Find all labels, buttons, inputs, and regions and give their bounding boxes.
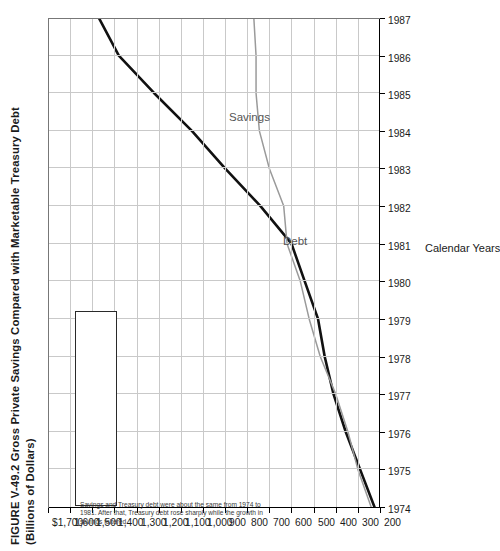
x-tick [380,357,385,358]
x-tick-label: 1987 [388,15,411,26]
x-tick [380,319,385,320]
x-tick [380,18,385,19]
x-tick [380,93,385,94]
annotation-box: Savings and Treasury debt were about the… [75,311,117,507]
x-tick-label: 1979 [388,316,411,327]
y-tick-label: 400 [340,517,357,528]
x-tick [380,244,385,245]
series-label-debt: Debt [283,235,307,247]
x-tick [380,281,385,282]
gridline-horizontal [137,19,138,507]
gridline-horizontal [336,19,337,507]
x-tick-label: 1983 [388,165,411,176]
plot-right-border [48,18,380,19]
y-tick [336,508,337,513]
gridline-vertical [48,92,379,93]
gridline-horizontal [225,19,226,507]
x-tick-label: 1981 [388,241,411,252]
gridline-vertical [48,205,379,206]
y-tick-label: 300 [362,517,379,528]
y-tick-label: 700 [273,517,290,528]
gridline-vertical [48,167,379,168]
gridline-horizontal [269,19,270,507]
gridline-horizontal [181,19,182,507]
x-tick [380,56,385,57]
x-tick-label: 1980 [388,278,411,289]
gridline-horizontal [159,19,160,507]
figure-title-line2: (Billions of Dollars) [23,5,38,545]
y-tick [269,508,270,513]
y-tick [48,508,49,513]
x-tick [380,206,385,207]
y-tick [380,508,381,513]
x-tick-label: 1974 [388,504,411,515]
annotation-text: Savings and Treasury debt were about the… [80,501,267,526]
y-tick [314,508,315,513]
figure-title: FIGURE V-49.2 Gross Private Savings Comp… [8,5,38,545]
x-tick-label: 1985 [388,90,411,101]
gridline-vertical [48,243,379,244]
x-tick-label: 1976 [388,429,411,440]
gridline-vertical [48,130,379,131]
x-tick [380,168,385,169]
x-tick [380,131,385,132]
x-tick-label: 1975 [388,466,411,477]
y-tick-label: 600 [295,517,312,528]
plot-top-border [48,19,49,508]
y-tick [291,508,292,513]
gridline-horizontal [358,19,359,507]
y-tick-label: 200 [384,517,401,528]
gridline-horizontal [314,19,315,507]
gridline-horizontal [203,19,204,507]
x-tick-label: 1978 [388,354,411,365]
gridline-horizontal [70,19,71,507]
figure-title-line1: FIGURE V-49.2 Gross Private Savings Comp… [9,107,21,545]
y-tick [358,508,359,513]
gridline-vertical [48,280,379,281]
x-tick [380,394,385,395]
x-tick-label: 1982 [388,203,411,214]
gridline-horizontal [291,19,292,507]
x-axis-title: Calendar Years [425,242,500,254]
x-tick [380,469,385,470]
x-tick-label: 1977 [388,391,411,402]
y-tick [70,508,71,513]
gridline-horizontal [247,19,248,507]
y-tick-label: 500 [318,517,335,528]
x-tick-label: 1984 [388,128,411,139]
x-tick-label: 1986 [388,53,411,64]
series-label-savings: Savings [229,111,270,123]
x-tick [380,432,385,433]
gridline-vertical [48,55,379,56]
